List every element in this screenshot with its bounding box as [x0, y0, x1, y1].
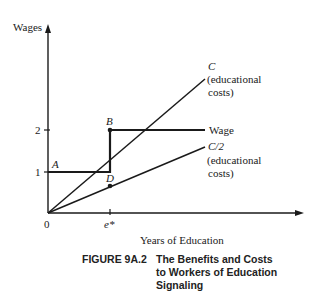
y-axis-label: Wages — [13, 21, 42, 34]
curve-c2-sub1: (educational — [207, 154, 261, 167]
point-b — [108, 128, 113, 133]
x-axis-label: Years of Education — [140, 234, 224, 247]
curve-c2-sub2: costs) — [208, 167, 234, 180]
tick-label-1: 1 — [35, 166, 41, 179]
curve-wage — [48, 130, 205, 172]
caption-line3: Signaling — [156, 279, 203, 292]
tick-label-estar: e* — [104, 218, 114, 231]
x-axis-arrow-icon — [295, 210, 304, 216]
curve-c-name: C — [208, 60, 215, 73]
origin-label: 0 — [44, 218, 50, 231]
curve-c2-name: C/2 — [208, 140, 224, 153]
caption-number: FIGURE 9A.2 — [82, 253, 147, 266]
tick-label-2: 2 — [35, 124, 41, 137]
point-label-d: D — [106, 172, 114, 185]
curve-c-sub2: costs) — [208, 86, 234, 99]
curve-c-sub1: (educational — [207, 73, 261, 86]
curve-c — [48, 79, 205, 213]
caption-line1: The Benefits and Costs — [156, 253, 273, 266]
y-axis-arrow-icon — [45, 24, 51, 33]
curve-wage-name: Wage — [209, 124, 234, 137]
point-label-a: A — [52, 158, 59, 171]
caption-line2: to Workers of Education — [156, 266, 277, 279]
curve-c2 — [48, 147, 205, 213]
point-label-b: B — [106, 115, 113, 128]
